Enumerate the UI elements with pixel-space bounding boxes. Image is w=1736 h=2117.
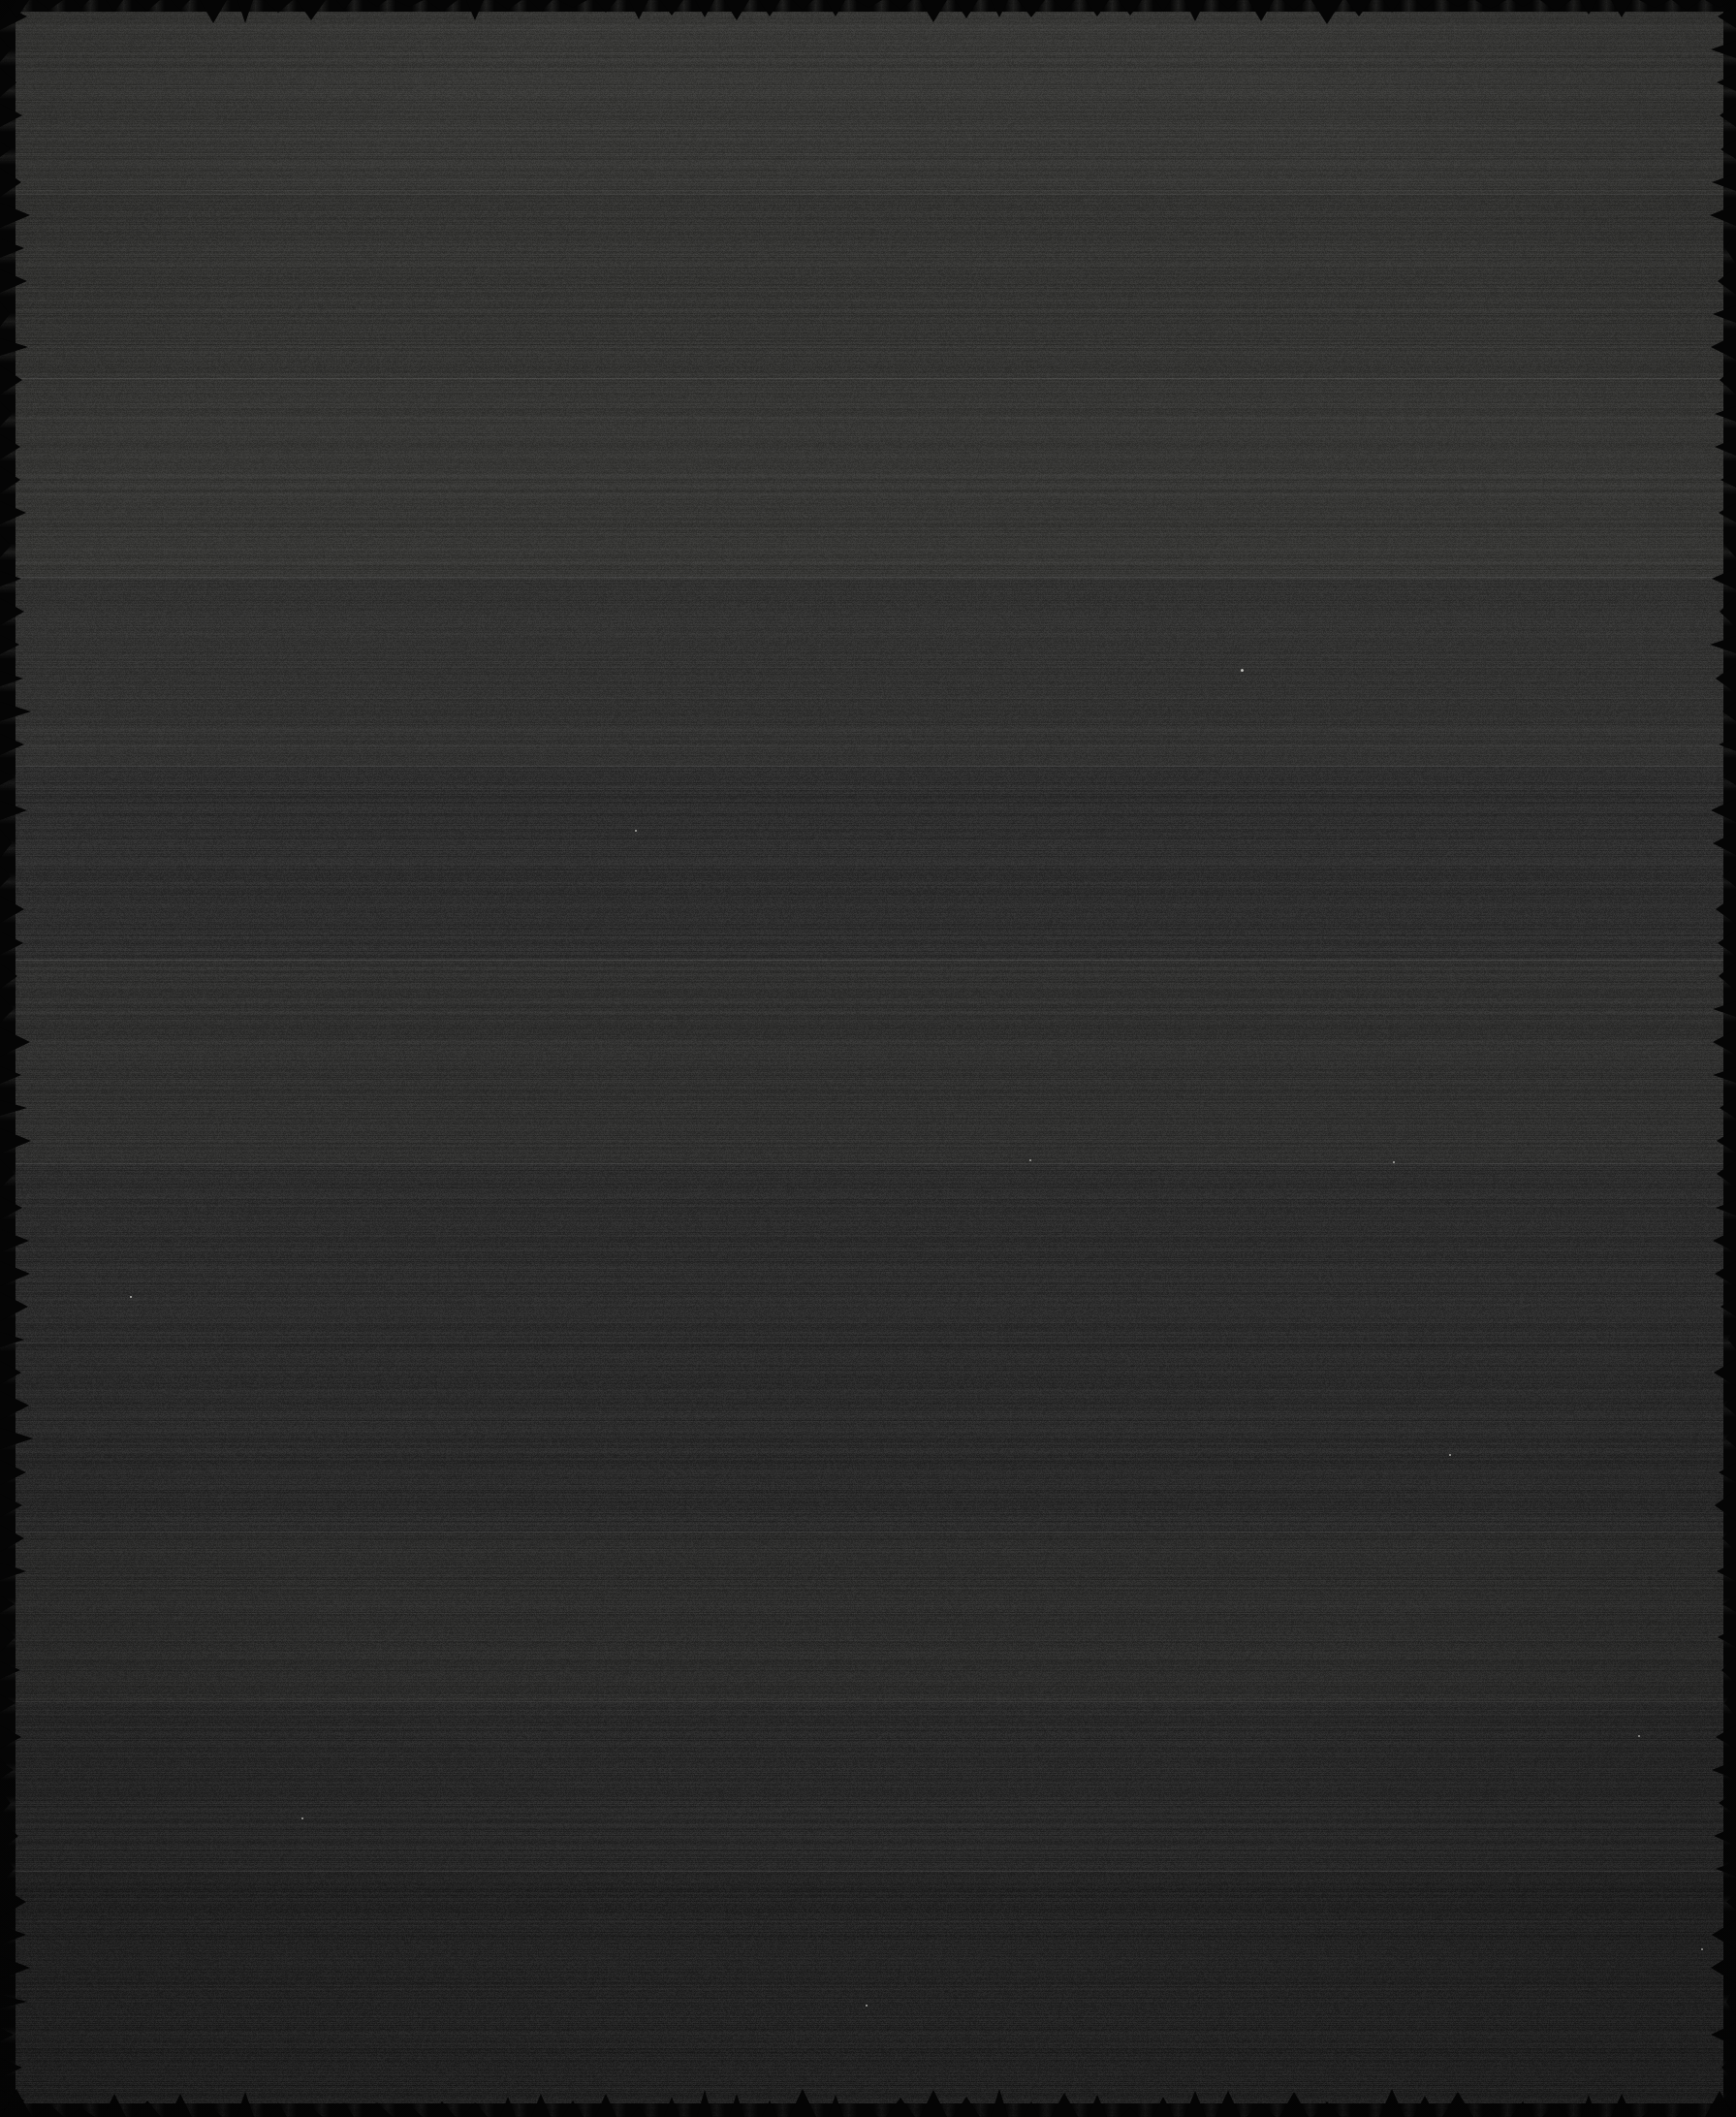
base-gradient-layer xyxy=(0,0,1736,2117)
fringe-tooth xyxy=(1725,1430,1736,1447)
fringe-tooth xyxy=(1018,0,1045,17)
fringe-tooth xyxy=(0,203,30,228)
scanline-overlay xyxy=(0,0,1736,2117)
fringe-tooth xyxy=(0,1128,31,1153)
luminance-band xyxy=(0,378,1736,577)
fringe-tooth xyxy=(1713,1029,1736,1055)
fringe-tooth xyxy=(0,1820,18,1851)
fringe-tooth xyxy=(1715,406,1736,422)
fringe-tooth xyxy=(792,0,813,10)
fringe-tooth xyxy=(269,2102,287,2117)
fringe-tooth xyxy=(1725,233,1736,264)
fringe-tooth xyxy=(0,1100,27,1116)
fringe-tooth xyxy=(0,598,24,625)
hot-pixel-speck xyxy=(1241,669,1244,672)
fringe-tooth xyxy=(1248,0,1274,21)
fringe-tooth xyxy=(428,2101,456,2117)
luminance-band xyxy=(0,960,1736,1163)
fringe-tooth xyxy=(1712,568,1736,589)
fringe-tooth xyxy=(1728,1330,1736,1349)
fringe-tooth xyxy=(395,0,424,7)
fringe-tooth xyxy=(1379,2089,1405,2117)
fringe-tooth xyxy=(955,0,978,18)
fringe-tooth xyxy=(1710,205,1736,226)
fringe-tooth xyxy=(1714,1826,1736,1846)
fringe-tooth xyxy=(0,365,22,395)
fringe-tooth xyxy=(1725,534,1736,557)
fringe-tooth xyxy=(0,1196,22,1219)
fringe-tooth xyxy=(0,1596,15,1613)
fringe-tooth xyxy=(1713,305,1736,323)
luminance-band xyxy=(0,194,1736,378)
fringe-tooth xyxy=(1722,1596,1736,1612)
fringe-tooth xyxy=(1024,2101,1039,2117)
fringe-tooth xyxy=(1350,2106,1368,2117)
fringe-tooth xyxy=(695,0,714,17)
luminance-band xyxy=(0,766,1736,960)
fringe-tooth xyxy=(1710,636,1736,653)
fringe-tooth xyxy=(920,2090,947,2117)
hot-pixel-speck xyxy=(635,830,637,832)
fringe-tooth xyxy=(4,0,29,18)
fringe-tooth xyxy=(1088,2095,1107,2117)
edge-fringe-bottom xyxy=(0,2103,1736,2117)
fringe-tooth xyxy=(0,1460,26,1485)
fringe-tooth xyxy=(1718,931,1736,956)
fringe-tooth xyxy=(1722,866,1736,887)
fringe-tooth xyxy=(1717,1562,1736,1581)
luminance-band xyxy=(0,577,1736,766)
fringe-tooth xyxy=(169,2094,192,2117)
fringe-tooth xyxy=(0,702,31,721)
fringe-tooth xyxy=(0,2058,22,2077)
fringe-tooth xyxy=(0,301,10,327)
fringe-tooth xyxy=(859,2107,878,2117)
fringe-tooth xyxy=(334,2102,354,2117)
fringe-tooth xyxy=(0,1229,29,1252)
fringe-tooth xyxy=(0,238,24,258)
fringe-tooth xyxy=(0,932,23,955)
fringe-tooth xyxy=(1215,2091,1241,2117)
fringe-tooth xyxy=(106,0,123,12)
fringe-tooth xyxy=(1542,2104,1569,2117)
fringe-tooth xyxy=(1152,2097,1174,2117)
fringe-tooth xyxy=(0,571,21,586)
fringe-tooth xyxy=(1712,1760,1736,1780)
fringe-tooth xyxy=(1724,1396,1736,1415)
fringe-tooth xyxy=(0,1956,30,1979)
fringe-tooth xyxy=(74,0,89,8)
fringe-tooth xyxy=(1719,738,1736,751)
fringe-tooth xyxy=(0,1791,11,1815)
noise-image-surface xyxy=(0,0,1736,2117)
fringe-tooth xyxy=(336,0,352,10)
fringe-tooth xyxy=(1713,1229,1736,1252)
fringe-tooth xyxy=(462,2102,488,2117)
fringe-tooth xyxy=(0,1925,26,1944)
fringe-tooth xyxy=(595,0,616,13)
fringe-tooth xyxy=(0,1494,22,1517)
fringe-tooth xyxy=(0,501,26,524)
fringe-tooth xyxy=(1720,104,1736,127)
fringe-tooth xyxy=(1383,0,1401,13)
fringe-tooth xyxy=(0,401,12,427)
hot-pixel-speck xyxy=(1029,1159,1031,1161)
fringe-tooth xyxy=(0,3,27,30)
fringe-tooth xyxy=(0,1853,15,1884)
fringe-tooth xyxy=(0,1261,30,1286)
fringe-tooth xyxy=(0,2028,14,2041)
fringe-tooth xyxy=(762,2101,777,2117)
fringe-tooth xyxy=(1719,962,1736,991)
fringe-tooth xyxy=(1716,895,1736,924)
fringe-tooth xyxy=(297,0,326,20)
vignette-overlay xyxy=(0,0,1736,2117)
fringe-tooth xyxy=(0,770,15,785)
fringe-tooth xyxy=(0,1563,26,1580)
edge-fringe-top xyxy=(0,0,1736,12)
fringe-tooth xyxy=(724,0,749,20)
fringe-tooth xyxy=(0,269,27,293)
fringe-tooth xyxy=(1642,2107,1667,2117)
fringe-tooth xyxy=(1282,0,1306,10)
fringe-tooth xyxy=(1413,2096,1436,2117)
fringe-tooth xyxy=(0,168,21,197)
fringe-tooth xyxy=(1051,2093,1078,2117)
fringe-tooth xyxy=(1611,2094,1632,2117)
